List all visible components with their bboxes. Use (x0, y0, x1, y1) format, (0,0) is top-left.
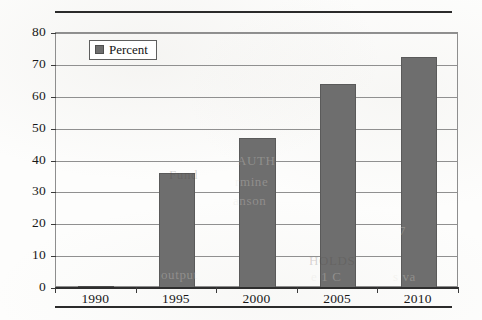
gridline (56, 129, 457, 130)
bar-2010 (401, 57, 437, 288)
gridline (56, 65, 457, 66)
x-tick-label-2010: 2010 (404, 291, 432, 307)
y-tick-label: 0 (4, 279, 46, 295)
x-tick-mark (216, 287, 217, 293)
legend: Percent (89, 40, 157, 60)
y-tick-mark (51, 33, 56, 34)
x-tick-mark (377, 287, 378, 293)
y-tick-label: 60 (4, 88, 46, 104)
bar-1995 (159, 173, 195, 288)
bar-2000 (239, 138, 275, 288)
y-tick-label: 80 (4, 24, 46, 40)
bar-chart: 01020304050607080 FundoutputAUTHrmineans… (0, 0, 482, 320)
scanned-page: 01020304050607080 FundoutputAUTHrmineans… (0, 0, 482, 320)
x-tick-label-2000: 2000 (243, 291, 271, 307)
x-tick-mark (297, 287, 298, 293)
y-tick-mark (51, 256, 56, 257)
x-tick-label-2005: 2005 (323, 291, 351, 307)
y-tick-label: 50 (4, 120, 46, 136)
legend-label-percent: Percent (109, 43, 148, 56)
y-tick-label: 10 (4, 247, 46, 263)
bar-2005 (320, 84, 356, 288)
x-tick-mark (55, 287, 56, 293)
plot-area: FundoutputAUTHrmineansonHOLDSe 1 Cs va7 … (55, 32, 458, 287)
y-tick-mark (51, 97, 56, 98)
x-tick-mark (458, 287, 459, 293)
x-tick-mark (136, 287, 137, 293)
y-tick-label: 40 (4, 152, 46, 168)
y-tick-label: 30 (4, 183, 46, 199)
y-tick-label: 20 (4, 215, 46, 231)
y-tick-mark (51, 129, 56, 130)
x-axis-line (55, 287, 458, 289)
gridline (56, 33, 457, 34)
y-tick-mark (51, 161, 56, 162)
y-tick-label: 70 (4, 56, 46, 72)
y-tick-mark (51, 65, 56, 66)
legend-swatch-percent (95, 45, 104, 54)
x-tick-label-1995: 1995 (162, 291, 190, 307)
y-tick-mark (51, 224, 56, 225)
x-tick-label-1990: 1990 (81, 291, 109, 307)
y-tick-mark (51, 192, 56, 193)
gridline (56, 97, 457, 98)
